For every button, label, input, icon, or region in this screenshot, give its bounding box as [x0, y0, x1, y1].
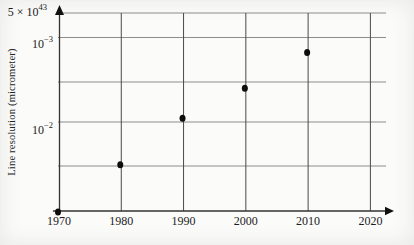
- y-tick-top-exp: 43: [39, 2, 48, 12]
- x-tick-label: 1970: [37, 214, 81, 229]
- chart-figure: Line resolution (micrometer) 5 × 1043 10…: [0, 0, 414, 245]
- y-axis-title: Line resolution (micrometer): [6, 37, 20, 187]
- y-tick-label-top: 5 × 1043: [0, 6, 47, 19]
- data-point: [180, 115, 186, 122]
- y-tick-mid-base: 10: [32, 37, 44, 51]
- x-tick-label: 2000: [224, 214, 268, 229]
- y-axis-arrow-icon: [55, 5, 64, 15]
- x-tick-label: 1980: [99, 214, 143, 229]
- x-tick-label: 2020: [348, 214, 392, 229]
- plot-svg: [0, 0, 414, 245]
- y-tick-top-base: 5 × 10: [8, 5, 39, 19]
- x-tick-label: 2010: [286, 214, 330, 229]
- x-tick-label: 1990: [162, 214, 206, 229]
- y-tick-label-low: 10−2: [0, 124, 53, 137]
- y-tick-label-mid: 10−3: [0, 38, 53, 51]
- data-point: [242, 85, 248, 92]
- x-axis-tick-labels: 197019801990200020102020: [0, 214, 414, 230]
- data-point: [304, 49, 310, 56]
- y-tick-mid-exp: −3: [44, 34, 53, 44]
- y-tick-low-base: 10: [32, 123, 44, 137]
- y-tick-low-exp: −2: [44, 120, 53, 130]
- data-point: [117, 161, 123, 168]
